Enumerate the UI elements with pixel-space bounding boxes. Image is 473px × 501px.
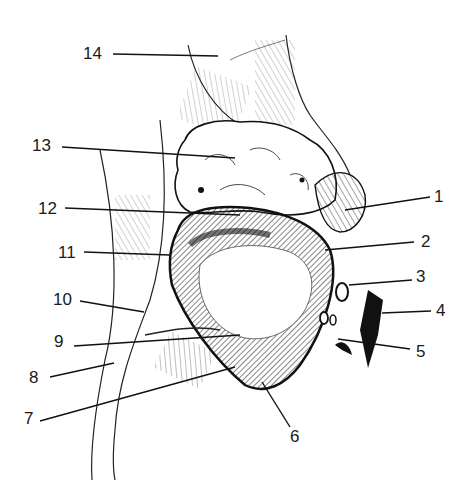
label-9: 9: [54, 333, 63, 350]
label-14: 14: [83, 45, 102, 62]
label-8: 8: [29, 369, 38, 386]
label-4: 4: [436, 302, 445, 319]
label-12: 12: [38, 200, 57, 217]
label-10: 10: [53, 291, 72, 308]
label-2: 2: [421, 233, 430, 250]
structure-13: [175, 121, 336, 215]
label-5: 5: [416, 343, 425, 360]
anatomical-figure: 1 2 3 4 5 6 7 8 9 10 11 12 13 14: [0, 0, 473, 501]
label-7: 7: [24, 410, 33, 427]
label-6: 6: [290, 428, 299, 445]
label-11: 11: [58, 244, 76, 261]
label-13: 13: [32, 137, 51, 154]
label-3: 3: [416, 268, 425, 285]
structure-1: [315, 173, 365, 232]
label-1: 1: [434, 188, 443, 205]
